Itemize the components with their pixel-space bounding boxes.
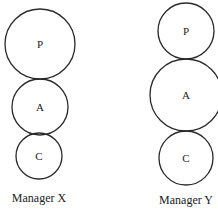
manager-y-parent-label: P (183, 25, 189, 37)
manager-y-caption: Manager Y (159, 193, 213, 207)
manager-x-adult-label: A (36, 101, 44, 113)
manager-x-figure: P A C Manager X (5, 9, 75, 205)
manager-x-caption: Manager X (12, 191, 67, 205)
manager-y-child-label: C (182, 152, 189, 164)
manager-x-parent-label: P (37, 38, 43, 50)
manager-y-adult-label: A (182, 89, 190, 101)
ego-state-diagram: P A C Manager X P A C Manager Y (0, 0, 218, 214)
manager-x-child-label: C (35, 150, 42, 162)
manager-y-figure: P A C Manager Y (150, 3, 218, 207)
